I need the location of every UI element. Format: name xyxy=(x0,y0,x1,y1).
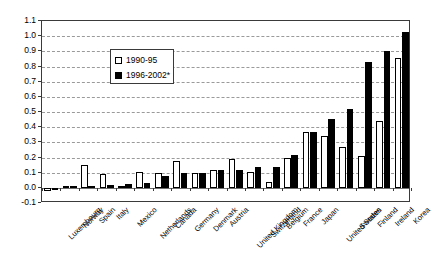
y-tick-label: 0.6 xyxy=(4,92,36,101)
y-tick-mark xyxy=(38,202,41,203)
legend: 1990-95 1996-2002* xyxy=(110,49,174,84)
y-tick-label: 0.9 xyxy=(4,46,36,55)
y-tick-label: 0.3 xyxy=(4,137,36,146)
x-tick-mark xyxy=(153,188,154,191)
bar-mexico-1 xyxy=(125,184,132,188)
x-tick-mark xyxy=(171,188,172,191)
bar-ireland-0 xyxy=(376,121,383,188)
bars-layer xyxy=(42,21,409,201)
bar-germany-1 xyxy=(181,173,188,188)
bar-norway-0 xyxy=(63,186,70,188)
bar-mexico-0 xyxy=(118,186,125,188)
legend-swatch-1996-2002-icon xyxy=(115,72,122,79)
bar-netherlands-1 xyxy=(144,183,151,188)
bar-austria-1 xyxy=(218,170,225,187)
y-tick-label: 0.5 xyxy=(4,107,36,116)
x-tick-label-korea: Korea xyxy=(412,206,432,226)
x-tick-mark xyxy=(263,188,264,191)
y-tick-label: 1.0 xyxy=(4,31,36,40)
bar-italy-0 xyxy=(100,174,107,188)
bar-canada-0 xyxy=(155,173,162,188)
x-tick-mark xyxy=(79,188,80,191)
bar-spain-1 xyxy=(88,186,95,188)
bar-austria-0 xyxy=(210,170,217,187)
legend-item-1: 1996-2002* xyxy=(115,68,173,83)
bar-united-kingdom-0 xyxy=(229,159,236,188)
y-tick-label: 0.2 xyxy=(4,153,36,162)
bar-spain-0 xyxy=(81,165,88,188)
x-tick-mark xyxy=(319,188,320,191)
bar-france-1 xyxy=(291,155,298,188)
x-tick-mark xyxy=(116,188,117,191)
x-tick-mark xyxy=(208,188,209,191)
bar-korea-0 xyxy=(395,58,402,188)
y-tick-label: 0.7 xyxy=(4,77,36,86)
bar-canada-1 xyxy=(162,176,169,187)
bar-netherlands-0 xyxy=(136,172,143,188)
bar-norway-1 xyxy=(70,186,77,188)
legend-swatch-1990-95-icon xyxy=(115,57,122,64)
x-axis-labels: LuxembourgNorwaySpainItalyMexicoNetherla… xyxy=(0,204,416,277)
x-tick-mark xyxy=(282,188,283,191)
legend-item-0: 1990-95 xyxy=(115,53,173,68)
bar-japan-0 xyxy=(303,132,310,187)
x-tick-mark xyxy=(374,188,375,191)
x-tick-mark xyxy=(42,188,43,191)
bar-sweden-0 xyxy=(339,147,346,188)
bar-belgium-0 xyxy=(266,182,273,188)
x-tick-mark xyxy=(393,188,394,191)
bar-switzerland-0 xyxy=(247,172,254,188)
x-tick-mark xyxy=(300,188,301,191)
y-tick-label: 1.1 xyxy=(4,16,36,25)
bar-switzerland-1 xyxy=(255,167,262,187)
legend-label-0: 1990-95 xyxy=(126,56,157,65)
bar-luxembourg-0 xyxy=(44,188,51,191)
bar-korea-1 xyxy=(402,32,409,188)
x-tick-mark xyxy=(411,188,412,191)
y-tick-label: 0.4 xyxy=(4,122,36,131)
bar-united-kingdom-1 xyxy=(236,170,243,188)
bar-ireland-1 xyxy=(384,51,391,188)
y-tick-label: 0.0 xyxy=(4,183,36,192)
legend-label-1: 1996-2002* xyxy=(126,71,170,80)
x-tick-label-mexico: Mexico xyxy=(136,206,158,228)
bar-france-0 xyxy=(284,158,291,188)
x-tick-mark xyxy=(190,188,191,191)
y-tick-label: 0.8 xyxy=(4,62,36,71)
bar-germany-0 xyxy=(173,161,180,188)
x-tick-mark xyxy=(337,188,338,191)
bar-united-states-0 xyxy=(321,136,328,188)
x-tick-mark xyxy=(97,188,98,191)
x-tick-mark xyxy=(134,188,135,191)
bar-japan-1 xyxy=(310,132,317,187)
y-tick-label: 0.1 xyxy=(4,168,36,177)
bar-denmark-0 xyxy=(192,173,199,187)
bar-belgium-1 xyxy=(273,167,280,187)
bar-sweden-1 xyxy=(347,109,354,188)
x-tick-mark xyxy=(227,188,228,191)
bar-denmark-1 xyxy=(199,173,206,188)
x-tick-label-italy: Italy xyxy=(115,206,130,221)
bar-finland-0 xyxy=(358,156,365,188)
bar-luxembourg-1 xyxy=(52,188,59,190)
x-tick-mark xyxy=(60,188,61,191)
x-tick-mark xyxy=(245,188,246,191)
x-tick-mark xyxy=(356,188,357,191)
bar-italy-1 xyxy=(107,185,114,188)
bar-finland-1 xyxy=(365,62,372,188)
plot-area: 1990-95 1996-2002* xyxy=(41,20,410,202)
bar-united-states-1 xyxy=(328,119,335,188)
